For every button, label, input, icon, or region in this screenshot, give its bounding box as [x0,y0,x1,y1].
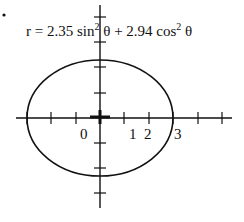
label-three: 3 [174,126,182,142]
label-zero: 0 [80,126,88,142]
label-two: 2 [144,126,152,142]
equation: r = 2.35 sin2 θ + 2.94 cos2 θ [26,21,192,39]
label-one: 1 [129,126,137,142]
bullet-dot [2,13,5,16]
polar-graph: r = 2.35 sin2 θ + 2.94 cos2 θ 0 1 2 3 [0,0,244,222]
